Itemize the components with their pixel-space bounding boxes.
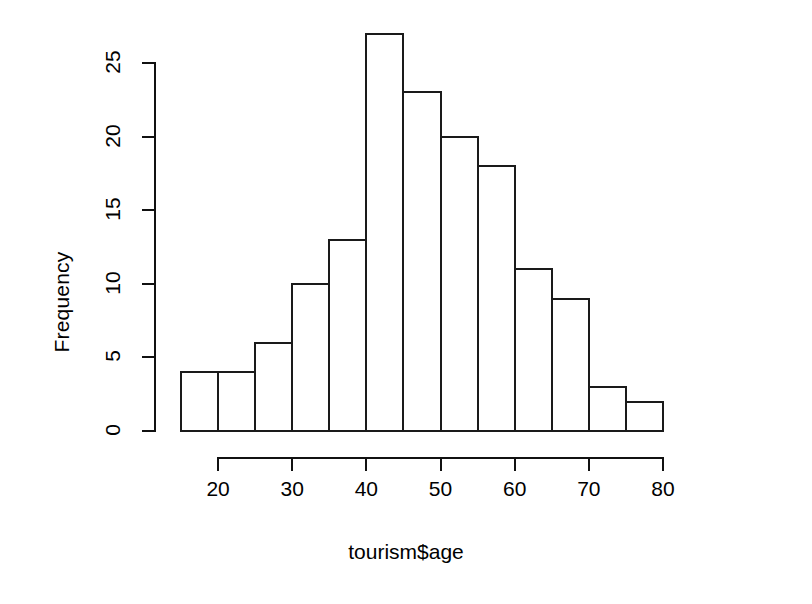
y-axis-tick: [142, 62, 155, 64]
histogram-bar: [365, 33, 404, 432]
y-axis-tick: [142, 430, 155, 432]
histogram-bar: [477, 165, 516, 432]
y-axis-tick-label: 10: [100, 260, 126, 306]
x-axis-tick-label: 60: [484, 477, 546, 501]
histogram-bar: [328, 239, 367, 432]
histogram-bar: [514, 268, 553, 432]
x-axis-tick-label: 80: [632, 477, 694, 501]
x-axis-title: tourism$age: [0, 540, 812, 564]
x-axis-tick-label: 50: [410, 477, 472, 501]
y-axis-tick: [142, 136, 155, 138]
x-axis-tick-label: 70: [558, 477, 620, 501]
y-axis-tick-label: 25: [100, 39, 126, 85]
histogram-bar: [217, 371, 256, 432]
x-axis-tick: [440, 457, 442, 471]
histogram-bar: [440, 136, 479, 432]
x-axis-tick: [217, 457, 219, 471]
histogram-bar: [588, 386, 627, 432]
x-axis-tick-label: 20: [187, 477, 249, 501]
y-axis-tick-label: 5: [100, 333, 126, 379]
x-axis-tick: [514, 457, 516, 471]
histogram-bar: [402, 91, 441, 432]
x-axis-tick: [365, 457, 367, 471]
histogram-figure: Frequency 0510152025 20304050607080 tour…: [0, 0, 812, 604]
y-axis-tick-label: 0: [100, 407, 126, 453]
x-axis-tick: [588, 457, 590, 471]
y-axis-tick: [142, 209, 155, 211]
x-axis-tick-label: 40: [335, 477, 397, 501]
y-axis-line: [154, 62, 156, 432]
x-axis-tick-label: 30: [261, 477, 323, 501]
y-axis-tick-label: 20: [100, 113, 126, 159]
x-axis-tick: [291, 457, 293, 471]
y-axis-tick: [142, 283, 155, 285]
histogram-bar: [254, 342, 293, 432]
histogram-bar: [180, 371, 219, 432]
histogram-bar: [291, 283, 330, 432]
y-axis-tick-label: 15: [100, 186, 126, 232]
histogram-bar: [625, 401, 664, 432]
y-axis-title: Frequency: [32, 0, 92, 604]
y-axis-tick: [142, 356, 155, 358]
histogram-bar: [551, 298, 590, 432]
x-axis-tick: [662, 457, 664, 471]
